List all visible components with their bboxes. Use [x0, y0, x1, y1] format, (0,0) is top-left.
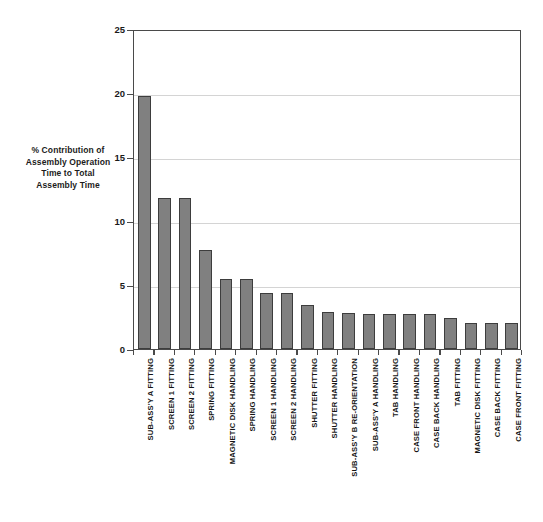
x-tick-label: SUB-ASS'Y A FITTING: [146, 358, 155, 440]
x-tick-label: TAB FITTING: [453, 358, 462, 406]
x-tick-mark: [133, 350, 134, 355]
x-tick-mark: [235, 350, 236, 355]
x-tick-label: CASE BACK HANDLING: [432, 358, 441, 448]
bar: [403, 314, 416, 349]
x-tick-label: SCREEN 2 FITTING: [187, 358, 196, 430]
x-tick-label: SUB-ASS'Y A HANDLING: [371, 358, 380, 451]
bar: [220, 279, 233, 349]
x-tick-label: TAB HANDLING: [391, 358, 400, 417]
bar: [444, 318, 457, 349]
x-tick-mark: [174, 350, 175, 355]
x-tick-label: SHUTTER FITTING: [310, 358, 319, 428]
bar: [240, 279, 253, 349]
bar: [505, 323, 518, 349]
bar: [179, 198, 192, 349]
x-tick-mark: [215, 350, 216, 355]
bar: [199, 250, 212, 349]
x-tick-label: SPRING HANDLING: [248, 358, 257, 432]
bar: [138, 96, 151, 349]
x-tick-label: SCREEN 1 FITTING: [167, 358, 176, 430]
x-tick-label: SHUTTER HANDLING: [330, 358, 339, 438]
bar: [301, 305, 314, 349]
x-tick-mark: [194, 350, 195, 355]
x-tick-mark: [337, 350, 338, 355]
plot-area: [133, 30, 521, 350]
y-tick-label: 20: [99, 88, 125, 99]
x-tick-mark: [521, 350, 522, 355]
x-tick-label: MAGNETIC DISK HANDLING: [228, 358, 237, 464]
x-tick-mark: [439, 350, 440, 355]
x-tick-mark: [296, 350, 297, 355]
y-tick-label: 25: [99, 24, 125, 35]
x-tick-label: CASE BACK FITTING: [493, 358, 502, 437]
x-tick-mark: [153, 350, 154, 355]
bar: [424, 314, 437, 349]
bar: [485, 323, 498, 349]
bar: [260, 293, 273, 349]
x-tick-mark: [256, 350, 257, 355]
x-tick-mark: [378, 350, 379, 355]
x-tick-label: SUB-ASS'Y B RE-ORIENTATION: [350, 358, 359, 477]
x-tick-mark: [398, 350, 399, 355]
bar: [363, 314, 376, 349]
bar: [281, 293, 294, 349]
x-tick-label: CASE FRONT FITTING: [514, 358, 523, 442]
x-tick-mark: [460, 350, 461, 355]
x-tick-label: SCREEN 1 HANDLING: [269, 358, 278, 441]
y-tick-label: 0: [99, 344, 125, 355]
x-tick-mark: [317, 350, 318, 355]
x-tick-mark: [501, 350, 502, 355]
bar-chart-figure: % Contribution of Assembly Operation Tim…: [0, 0, 543, 522]
y-tick-label: 5: [99, 280, 125, 291]
x-tick-label: SCREEN 2 HANDLING: [289, 358, 298, 441]
x-tick-label: CASE FRONT HANDLING: [412, 358, 421, 452]
x-tick-label: SPRING FITTING: [207, 358, 216, 421]
bars-layer: [134, 31, 520, 349]
bar: [342, 313, 355, 349]
x-tick-mark: [358, 350, 359, 355]
x-tick-mark: [276, 350, 277, 355]
y-axis-title-line-4: Assembly Time: [16, 180, 120, 192]
bar: [465, 323, 478, 349]
x-tick-label: MAGNETIC DISK FITTING: [473, 358, 482, 454]
y-axis-title-line-3: Time to Total: [16, 168, 120, 180]
x-tick-mark: [419, 350, 420, 355]
bar: [383, 314, 396, 349]
y-tick-label: 15: [99, 152, 125, 163]
bar: [158, 198, 171, 349]
y-tick-label: 10: [99, 216, 125, 227]
bar: [322, 312, 335, 349]
x-tick-mark: [480, 350, 481, 355]
